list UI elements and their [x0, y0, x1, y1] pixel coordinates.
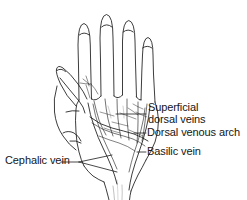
hand-venous-anatomy-drawing — [0, 0, 247, 200]
label-basilic-vein: Basilic vein — [147, 146, 201, 158]
label-superficial-dorsal-veins-line1: Superficial — [148, 101, 206, 113]
label-dorsal-venous-arch: Dorsal venous arch — [147, 127, 240, 139]
thumb — [54, 66, 87, 150]
anatomical-illustration: Superficial dorsal veins Dorsal venous a… — [0, 0, 247, 200]
label-cephalic-vein: Cephalic vein — [5, 155, 70, 167]
cephalic-vein — [88, 103, 117, 184]
ring-finger — [123, 21, 137, 98]
label-superficial-dorsal-veins: Superficial dorsal veins — [148, 101, 206, 125]
dorsal-venous-arch — [90, 117, 148, 151]
index-finger — [78, 24, 92, 101]
leader-lines — [61, 114, 146, 172]
middle-finger — [100, 15, 114, 97]
little-finger — [141, 38, 155, 103]
label-superficial-dorsal-veins-line2: dorsal veins — [148, 113, 206, 125]
